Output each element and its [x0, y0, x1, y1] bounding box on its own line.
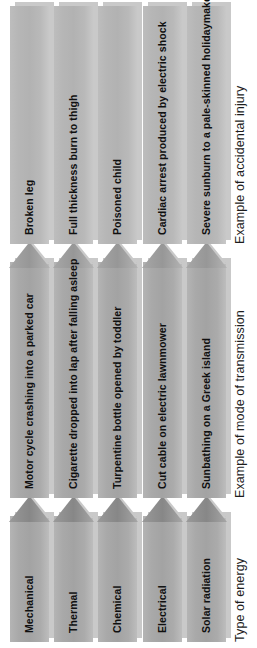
arrowhead-icon	[9, 242, 50, 268]
injury-label: Full thickness burn to thigh	[54, 95, 93, 244]
energy-bar[interactable]: Chemical	[98, 516, 137, 642]
arrowhead-icon	[97, 242, 138, 268]
injury-label: Cardiac arrest produced by electric shoc…	[143, 21, 182, 244]
arrowhead-icon	[9, 496, 50, 522]
energy-label: Electrical	[143, 585, 182, 642]
arrowhead-icon	[97, 496, 138, 522]
diagram-canvas: Mechanical Motor cycle crashing into a p…	[0, 0, 257, 648]
column-heading-transmission: Example of mode of transmission	[233, 310, 247, 498]
transmission-label: Cigarette dropped into lap after falling…	[54, 259, 93, 499]
arrowhead-icon	[142, 242, 183, 268]
transmission-bar[interactable]: Cigarette dropped into lap after falling…	[54, 262, 93, 498]
transmission-label: Turpentine bottle opened by toddler	[98, 307, 137, 498]
injury-label: Severe sunburn to a pale-skinned holiday…	[187, 0, 226, 244]
column-heading-injury: Example of accidental injury	[233, 86, 247, 244]
transmission-label: Cut cable on electric lawnmower	[143, 323, 182, 498]
flow-row: Mechanical Motor cycle crashing into a p…	[10, 0, 53, 648]
injury-label: Broken leg	[10, 180, 49, 244]
flow-row: Chemical Turpentine bottle opened by tod…	[98, 0, 141, 648]
energy-label: Chemical	[98, 586, 137, 643]
energy-bar[interactable]: Electrical	[143, 516, 182, 642]
transmission-bar[interactable]: Sunbathing on a Greek island	[187, 262, 226, 498]
arrowhead-icon	[186, 242, 227, 268]
flow-row: Thermal Cigarette dropped into lap after…	[54, 0, 97, 648]
flow-row: Solar radiation Sunbathing on a Greek is…	[187, 0, 230, 648]
injury-bar[interactable]: Full thickness burn to thigh	[54, 6, 93, 244]
injury-bar[interactable]: Poisoned child	[98, 6, 137, 244]
arrowhead-icon	[53, 496, 94, 522]
injury-label: Poisoned child	[98, 159, 137, 244]
transmission-label: Motor cycle crashing into a parked car	[10, 293, 49, 498]
transmission-bar[interactable]: Cut cable on electric lawnmower	[143, 262, 182, 498]
arrowhead-icon	[186, 496, 227, 522]
injury-bar[interactable]: Broken leg	[10, 6, 49, 244]
energy-bar[interactable]: Solar radiation	[187, 516, 226, 642]
transmission-bar[interactable]: Turpentine bottle opened by toddler	[98, 262, 137, 498]
arrowhead-icon	[142, 496, 183, 522]
injury-bar[interactable]: Cardiac arrest produced by electric shoc…	[143, 6, 182, 244]
transmission-bar[interactable]: Motor cycle crashing into a parked car	[10, 262, 49, 498]
energy-label: Solar radiation	[187, 558, 226, 642]
energy-label: Mechanical	[10, 575, 49, 642]
energy-bar[interactable]: Thermal	[54, 516, 93, 642]
transmission-label: Sunbathing on a Greek island	[187, 338, 226, 498]
flow-row: Electrical Cut cable on electric lawnmow…	[143, 0, 186, 648]
energy-bar[interactable]: Mechanical	[10, 516, 49, 642]
injury-bar[interactable]: Severe sunburn to a pale-skinned holiday…	[187, 6, 226, 244]
column-heading-energy: Type of energy	[233, 558, 247, 642]
energy-label: Thermal	[54, 591, 93, 642]
